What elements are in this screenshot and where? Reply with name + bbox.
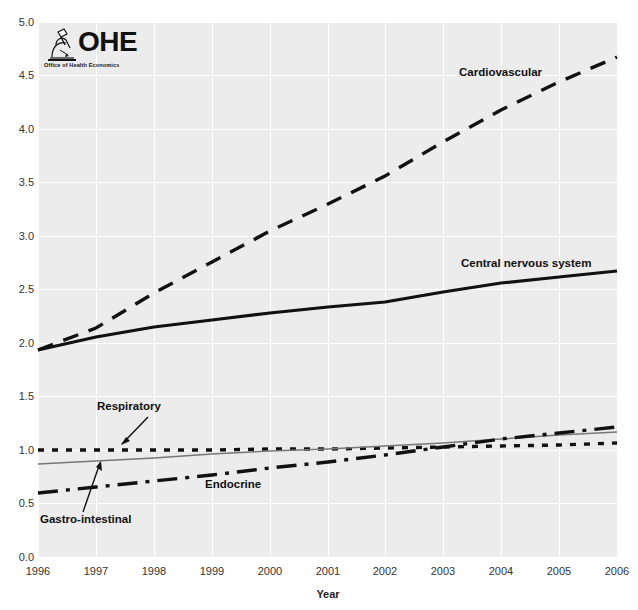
x-tick-label: 2003: [413, 566, 473, 577]
y-tick-label: 2.5: [4, 284, 34, 295]
x-tick-label: 1998: [124, 566, 184, 577]
y-tick-label: 4.0: [4, 124, 34, 135]
x-tick-label: 2001: [298, 566, 358, 577]
y-tick-label: 1.0: [4, 445, 34, 456]
series-label-gastro-intestinal: Gastro-intestinal: [40, 513, 131, 525]
gridline-x-1996: [38, 22, 39, 557]
gridline-x-2005: [559, 22, 560, 557]
gridline-x-1997: [96, 22, 97, 557]
gridline-x-2000: [270, 22, 271, 557]
y-tick-label: 2.0: [4, 338, 34, 349]
x-tick-label: 2005: [529, 566, 589, 577]
y-tick-label: 3.5: [4, 177, 34, 188]
x-axis-title: Year: [278, 588, 378, 600]
gridline-x-2002: [385, 22, 386, 557]
gridline-x-1998: [154, 22, 155, 557]
series-label-cardiovascular: Cardiovascular: [459, 66, 542, 78]
series-label-respiratory: Respiratory: [97, 400, 161, 412]
gridline-x-2003: [443, 22, 444, 557]
y-tick-label: 4.5: [4, 70, 34, 81]
y-tick-label: 0.0: [4, 552, 34, 563]
y-tick-label: 0.5: [4, 498, 34, 509]
gridline-x-2001: [328, 22, 329, 557]
x-tick-label: 1999: [182, 566, 242, 577]
gridline-x-1999: [212, 22, 213, 557]
x-tick-label: 2000: [240, 566, 300, 577]
series-label-endocrine: Endocrine: [205, 478, 261, 490]
ohe-logo: OHE Office of Health Economics: [44, 26, 152, 68]
y-tick-label: 5.0: [4, 17, 34, 28]
x-tick-label: 2002: [355, 566, 415, 577]
y-tick-label: 3.0: [4, 231, 34, 242]
x-tick-label: 2006: [587, 566, 638, 577]
x-tick-label: 1996: [8, 566, 68, 577]
gridline-x-2004: [501, 22, 502, 557]
x-tick-label: 2004: [471, 566, 531, 577]
chart-canvas: 5.0 4.5 4.0 3.5 3.0 2.5 2.0 1.5 1.0 0.5 …: [0, 0, 638, 610]
x-tick-label: 1997: [66, 566, 126, 577]
gridline-y-0.0: [38, 557, 617, 558]
logo-tagline: Office of Health Economics: [44, 62, 119, 68]
series-label-central-nervous-system: Central nervous system: [461, 257, 591, 269]
gridline-x-2006: [617, 22, 618, 557]
y-tick-label: 1.5: [4, 391, 34, 402]
logo-wordmark: OHE: [78, 28, 137, 56]
